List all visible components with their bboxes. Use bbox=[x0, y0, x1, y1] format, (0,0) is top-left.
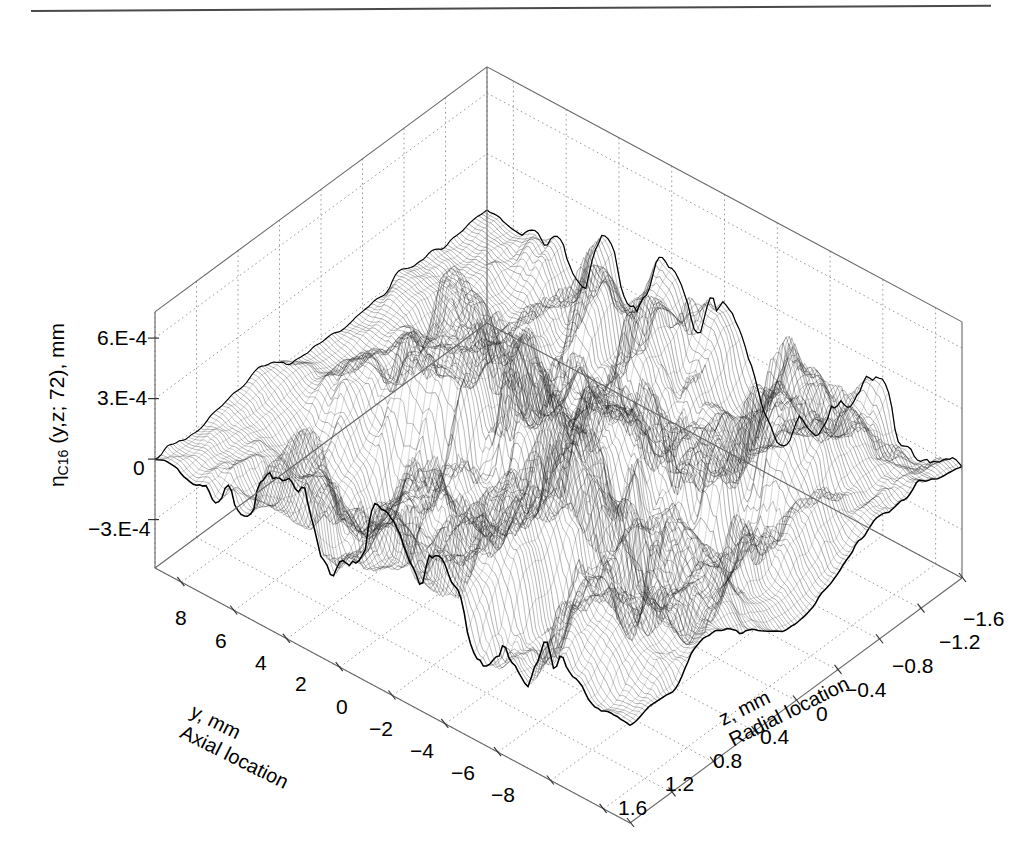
z-axis-subscript: C16 bbox=[55, 450, 71, 476]
x-tick-label-8: −1.6 bbox=[963, 608, 1004, 629]
x-tick-label-0: 1.6 bbox=[618, 797, 647, 818]
z-tick-label-1: 3.E-4 bbox=[97, 387, 147, 408]
wireframe-surface-mesh bbox=[155, 210, 962, 725]
z-tick-label-2: 0 bbox=[133, 457, 145, 478]
y-tick-label-3: 2 bbox=[295, 673, 307, 694]
y-tick-label-4: 0 bbox=[336, 696, 348, 717]
z-tick-label-3: −3.E-4 bbox=[88, 518, 150, 539]
x-tick-label-2: 0.8 bbox=[713, 750, 742, 771]
y-tick-label-0: 8 bbox=[175, 607, 187, 628]
y-tick-label-8: −8 bbox=[491, 784, 515, 805]
z-tick-label-0: 6.E-4 bbox=[97, 327, 147, 348]
y-tick-label-7: −6 bbox=[451, 762, 475, 783]
y-tick-label-2: 4 bbox=[255, 652, 267, 673]
y-tick-label-1: 6 bbox=[215, 630, 227, 651]
z-axis-symbol: η bbox=[45, 475, 68, 487]
x-tick-label-6: −0.8 bbox=[892, 655, 933, 676]
z-axis-title: ηC16 (y,z; 72), mm bbox=[45, 285, 71, 525]
z-axis-args: (y,z; 72), mm bbox=[45, 323, 68, 450]
y-tick-label-6: −4 bbox=[410, 740, 434, 761]
y-tick-label-5: −2 bbox=[369, 718, 393, 739]
x-tick-label-3: 0.4 bbox=[760, 726, 789, 747]
x-tick-label-7: −1.2 bbox=[939, 631, 980, 652]
x-tick-label-1: 1.2 bbox=[665, 773, 694, 794]
x-tick-label-4: 0 bbox=[816, 703, 828, 724]
figure-panel: ηC16 (y,z; 72), mm y, mm Axial location … bbox=[0, 0, 1021, 855]
surface-plot-canvas bbox=[0, 0, 1021, 855]
x-tick-label-5: −0.4 bbox=[845, 679, 886, 700]
